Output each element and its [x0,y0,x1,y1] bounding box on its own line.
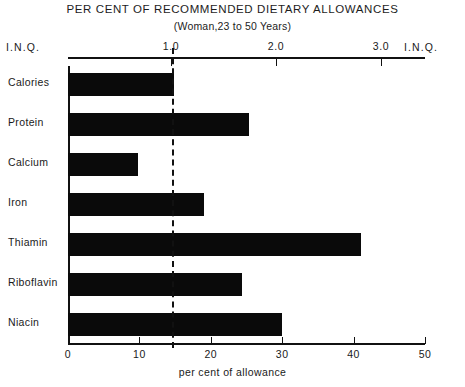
bottom-axis-tick-label: 30 [276,348,289,360]
bar [68,233,361,256]
bottom-axis-tick-label: 20 [204,348,217,360]
category-label: Calcium [8,156,48,168]
inq-label-right: I.N.Q. [404,41,438,53]
category-label: Riboflavin [8,276,58,288]
bar [68,73,174,96]
bottom-axis-tick-label: 50 [419,348,432,360]
top-axis-tick-label: 2.0 [268,40,284,52]
top-axis-line [68,57,425,59]
reference-line [172,48,174,348]
chart-title: PER CENT OF RECOMMENDED DIETARY ALLOWANC… [0,3,465,15]
bottom-axis-tick [211,337,212,344]
inq-label-left: I.N.Q. [6,41,40,53]
bottom-axis-tick [354,337,355,344]
top-axis-tick [381,59,382,66]
category-label: Protein [8,116,44,128]
plot-area [68,66,425,343]
top-axis-tick [276,59,277,66]
bottom-axis-tick-label: 0 [65,348,71,360]
category-label: Thiamin [8,236,48,248]
chart-container: PER CENT OF RECOMMENDED DIETARY ALLOWANC… [0,0,465,387]
bar [68,193,204,216]
bar [68,113,249,136]
category-label: Niacin [8,316,39,328]
bottom-axis-line [68,343,425,345]
bar [68,273,242,296]
bottom-axis-tick-label: 10 [133,348,146,360]
bottom-axis-tick-label: 40 [347,348,360,360]
bar [68,313,282,336]
chart-subtitle: (Woman,23 to 50 Years) [0,20,465,32]
bottom-axis-tick [139,337,140,344]
bottom-axis-tick [282,337,283,344]
bottom-axis-tick [68,337,69,344]
category-label: Iron [8,196,28,208]
category-label: Calories [8,76,49,88]
x-axis-title: per cent of allowance [0,366,465,378]
bar [68,153,138,176]
top-axis-tick-label: 3.0 [373,40,389,52]
bottom-axis-tick [425,337,426,344]
